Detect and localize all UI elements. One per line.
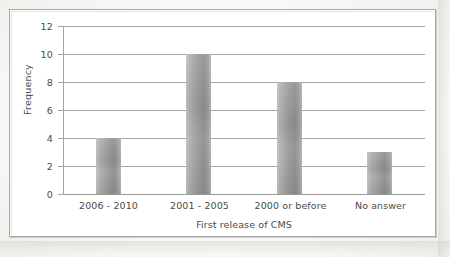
bar-2006-2010 bbox=[96, 138, 121, 194]
gridline-10 bbox=[63, 54, 425, 55]
y-axis-title: Frequency bbox=[22, 45, 33, 135]
gridline-8 bbox=[63, 82, 425, 83]
bar-no-answer bbox=[367, 152, 392, 194]
gridline-12 bbox=[63, 26, 425, 27]
x-axis-title: First release of CMS bbox=[63, 219, 425, 230]
x-tick-label-2001-2005: 2001 - 2005 bbox=[154, 201, 245, 211]
x-tick-label-no-answer: No answer bbox=[336, 201, 425, 211]
bar-2000-or-before bbox=[277, 82, 302, 194]
plot-area bbox=[63, 26, 425, 194]
y-tick-label-2: 2 bbox=[27, 162, 53, 172]
y-tick-label-12: 12 bbox=[27, 22, 53, 32]
x-tick-label-2006-2010: 2006 - 2010 bbox=[63, 201, 154, 211]
gridline-6 bbox=[63, 110, 425, 111]
gridline-0-baseline bbox=[63, 194, 425, 195]
y-tick-label-0: 0 bbox=[27, 190, 53, 200]
x-tick-label-2000-or-before: 2000 or before bbox=[245, 201, 336, 211]
y-tick-label-4: 4 bbox=[27, 134, 53, 144]
bar-chart: 12 10 8 6 4 2 0 Frequency 2006 - 2010 20… bbox=[0, 0, 450, 257]
bar-2001-2005 bbox=[186, 54, 211, 194]
